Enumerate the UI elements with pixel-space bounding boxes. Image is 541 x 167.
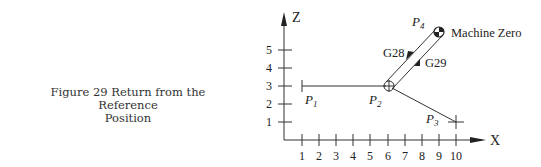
svg-text:3: 3 <box>266 79 272 93</box>
svg-text:3: 3 <box>333 149 339 163</box>
p3-label: P3 <box>425 111 439 128</box>
x-axis-arrow-icon <box>470 137 486 143</box>
svg-text:10: 10 <box>450 149 462 163</box>
machine-zero-label: Machine Zero <box>451 26 521 40</box>
z-axis-label: Z <box>292 10 301 25</box>
svg-text:8: 8 <box>419 149 425 163</box>
svg-text:5: 5 <box>266 43 272 57</box>
svg-text:7: 7 <box>402 149 408 163</box>
svg-text:4: 4 <box>350 149 356 163</box>
p4-label: P4 <box>411 14 425 31</box>
g28-label: G28 <box>383 46 405 60</box>
svg-text:1: 1 <box>299 149 305 163</box>
path-p2-p3 <box>392 88 456 122</box>
p2-label: P2 <box>368 92 382 109</box>
reference-return-diagram: Z X 1 2 3 4 5 1 2 3 4 5 6 7 8 9 10 <box>0 0 541 167</box>
svg-text:6: 6 <box>385 149 391 163</box>
svg-text:1: 1 <box>266 115 272 129</box>
g28-arrow-icon <box>406 51 414 60</box>
svg-text:5: 5 <box>367 149 373 163</box>
svg-text:4: 4 <box>266 61 272 75</box>
z-tick-labels: 1 2 3 4 5 <box>266 43 272 129</box>
x-tick-labels: 1 2 3 4 5 6 7 8 9 10 <box>299 149 462 163</box>
z-axis-arrow-icon <box>281 12 287 26</box>
svg-text:2: 2 <box>266 97 272 111</box>
g29-label: G29 <box>425 56 447 70</box>
svg-text:2: 2 <box>316 149 322 163</box>
svg-text:9: 9 <box>436 149 442 163</box>
machine-zero-marker <box>434 27 444 37</box>
z-ticks <box>278 50 292 122</box>
x-axis-label: X <box>490 133 500 148</box>
p1-label: P1 <box>304 92 317 109</box>
